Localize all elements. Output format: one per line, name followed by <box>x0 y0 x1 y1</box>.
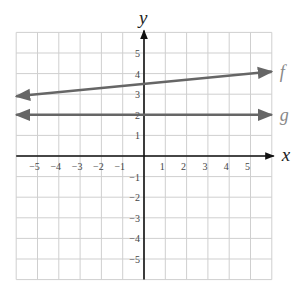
x-tick-label: 3 <box>202 161 207 172</box>
x-axis-label: x <box>281 144 291 165</box>
x-tick-label: −5 <box>29 161 40 172</box>
x-tick-label: 4 <box>224 161 229 172</box>
label-f: f <box>280 62 288 82</box>
y-tick-label: 4 <box>135 69 140 80</box>
x-tick-label: 2 <box>181 161 186 172</box>
y-tick-label: −2 <box>129 192 140 203</box>
y-tick-label: 1 <box>135 130 140 141</box>
label-g: g <box>280 105 289 125</box>
y-tick-label: −3 <box>129 213 140 224</box>
y-axis-label: y <box>137 7 148 28</box>
x-tick-label: 1 <box>160 161 165 172</box>
coordinate-plane: −5−4−3−2−112345−5−4−3−2−112345xyfg <box>0 0 305 287</box>
y-tick-label: 3 <box>135 89 140 100</box>
y-tick-label: −1 <box>129 172 140 183</box>
x-tick-label: 5 <box>245 161 250 172</box>
x-tick-label: −4 <box>50 161 61 172</box>
x-tick-label: −3 <box>72 161 83 172</box>
y-tick-label: −5 <box>129 254 140 265</box>
y-tick-label: 5 <box>135 48 140 59</box>
x-tick-label: −2 <box>93 161 104 172</box>
x-tick-label: −1 <box>114 161 125 172</box>
y-tick-label: −4 <box>129 233 140 244</box>
